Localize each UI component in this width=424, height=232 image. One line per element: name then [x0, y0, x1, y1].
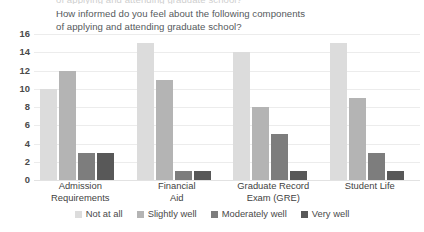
x-axis-label: FinancialAid: [131, 180, 228, 203]
legend-item[interactable]: Moderately well: [211, 209, 287, 219]
x-axis-label-line: Financial: [131, 180, 224, 192]
plot-wrapper: 0246810121416: [0, 34, 424, 180]
chart-title-line-1: How informed do you feel about the follo…: [56, 8, 386, 21]
y-tick-label: 12: [0, 66, 30, 76]
bar-group-bars: [131, 34, 228, 180]
bar: [40, 89, 57, 180]
legend-label: Not at all: [86, 209, 123, 219]
bar: [330, 43, 347, 180]
x-axis-label-line: Requirements: [34, 192, 127, 204]
bar: [97, 153, 114, 180]
chart-title: How informed do you feel about the follo…: [56, 8, 386, 33]
bar-group-bars: [227, 34, 324, 180]
bar-groups: [34, 34, 420, 180]
bar-group: [131, 34, 228, 180]
x-axis-label-line: Exam (GRE): [227, 192, 320, 204]
bar-group: [227, 34, 324, 180]
plot-area: [34, 34, 420, 180]
bar: [59, 71, 76, 181]
legend-swatch: [301, 211, 308, 218]
bar: [290, 171, 307, 180]
bar: [387, 171, 404, 180]
legend-swatch: [137, 211, 144, 218]
x-axis-label-line: Aid: [131, 192, 224, 204]
x-axis-label-line: Admission: [34, 180, 127, 192]
y-tick-label: 4: [0, 139, 30, 149]
y-tick-label: 14: [0, 47, 30, 57]
y-tick-label: 16: [0, 29, 30, 39]
x-axis-label: Graduate RecordExam (GRE): [227, 180, 324, 203]
bar: [156, 80, 173, 180]
legend: Not at allSlightly wellModerately wellVe…: [0, 209, 424, 219]
legend-label: Moderately well: [222, 209, 287, 219]
x-axis-labels: AdmissionRequirementsFinancialAidGraduat…: [34, 180, 420, 203]
bar: [175, 171, 192, 180]
bar-group-bars: [324, 34, 421, 180]
chart-title-line-2: of applying and attending graduate schoo…: [56, 21, 386, 34]
legend-swatch: [75, 211, 82, 218]
legend-swatch: [211, 211, 218, 218]
y-tick-label: 0: [0, 175, 30, 185]
bar-group: [324, 34, 421, 180]
bar-group: [34, 34, 131, 180]
cropped-header-text: of applying and attending graduate schoo…: [56, 0, 376, 4]
y-tick-label: 10: [0, 84, 30, 94]
bar: [368, 153, 385, 180]
bar-chart: of applying and attending graduate schoo…: [0, 0, 424, 232]
bar: [349, 98, 366, 180]
legend-item[interactable]: Very well: [301, 209, 350, 219]
legend-label: Very well: [312, 209, 350, 219]
x-axis-label: AdmissionRequirements: [34, 180, 131, 203]
y-axis: 0246810121416: [0, 34, 30, 180]
x-axis-label-line: Graduate Record: [227, 180, 320, 192]
bar: [194, 171, 211, 180]
bar: [233, 52, 250, 180]
y-tick-label: 2: [0, 157, 30, 167]
legend-item[interactable]: Not at all: [75, 209, 123, 219]
y-tick-label: 8: [0, 102, 30, 112]
bar: [137, 43, 154, 180]
bar: [78, 153, 95, 180]
bar-group-bars: [34, 34, 131, 180]
legend-item[interactable]: Slightly well: [137, 209, 197, 219]
legend-label: Slightly well: [148, 209, 197, 219]
y-tick-label: 6: [0, 120, 30, 130]
x-axis-label: Student Life: [324, 180, 421, 203]
bar: [252, 107, 269, 180]
bar: [271, 134, 288, 180]
x-axis-label-line: Student Life: [324, 180, 417, 192]
